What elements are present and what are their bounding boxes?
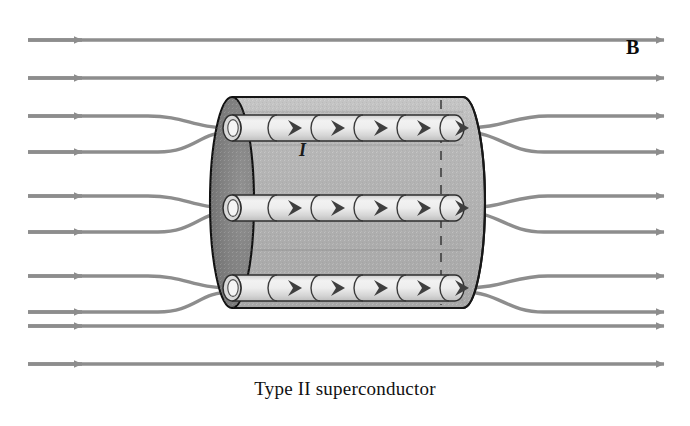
- field-label-b: B: [626, 36, 639, 59]
- vortex-tube: [223, 195, 469, 221]
- field-line-left-arrowheads: [28, 116, 82, 312]
- vortex-tube: [223, 115, 469, 141]
- vortex-tube: [223, 275, 469, 301]
- field-line-midarrow: [28, 40, 82, 364]
- current-label-i: I: [299, 140, 306, 161]
- superconductor-diagram: [0, 0, 690, 426]
- figure-root: B I Type II superconductor: [0, 0, 690, 426]
- field-line-converging-left: [28, 116, 232, 312]
- figure-caption: Type II superconductor: [0, 378, 690, 400]
- field-line-diverging-right: [463, 116, 664, 312]
